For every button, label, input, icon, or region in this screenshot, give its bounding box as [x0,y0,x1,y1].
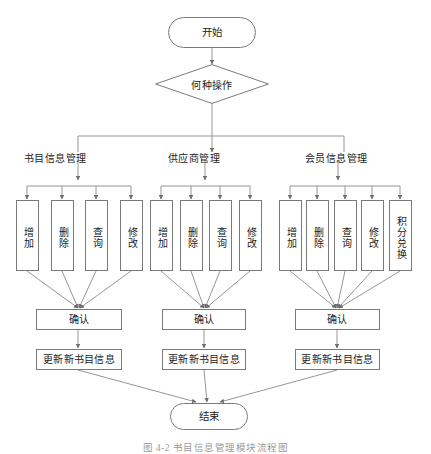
update-box[interactable]: 更新新书目信息 [162,349,246,370]
update-box-label: 更新新书目信息 [43,354,115,365]
operation-box[interactable]: 删除 [306,200,329,271]
branch-label-2: 供应商管理 [168,150,220,165]
operation-box[interactable]: 删除 [180,200,203,271]
operation-box-label: 增加 [22,223,33,249]
operation-box-label: 查询 [340,223,351,249]
operation-box-label: 增加 [156,223,167,249]
operation-box[interactable]: 删除 [51,200,74,271]
branch-label-3: 会员信息管理 [305,150,367,165]
confirm-box[interactable]: 确认 [36,309,122,330]
confirm-box-label: 确认 [194,314,215,325]
operation-box[interactable]: 积分兑换 [389,200,412,271]
branch-label-1-text: 书目信息管理 [24,153,86,164]
operation-box-label: 修改 [245,223,256,249]
operation-box-label: 修改 [126,223,137,249]
operation-box-label: 增加 [285,223,296,249]
branch-label-3-text: 会员信息管理 [305,153,367,164]
figure-caption: 图 4-2 书目信息管理模块流程图 [0,440,431,454]
update-box[interactable]: 更新新书目信息 [36,349,122,370]
update-box-label: 更新新书目信息 [301,354,373,365]
start-node[interactable]: 开始 [168,17,256,48]
operation-box-label: 查询 [215,223,226,249]
end-node-label: 结束 [199,411,220,423]
confirm-box[interactable]: 确认 [162,309,246,330]
operation-box[interactable]: 修改 [120,200,143,271]
update-box[interactable]: 更新新书目信息 [295,349,380,370]
start-node-label: 开始 [202,27,223,39]
operation-box[interactable]: 增加 [279,200,302,271]
operation-box[interactable]: 修改 [361,200,384,271]
decision-node[interactable]: 何种操作 [155,64,269,104]
operation-box[interactable]: 查询 [209,200,232,271]
update-box-label: 更新新书目信息 [168,354,240,365]
decision-node-label: 何种操作 [191,77,232,92]
end-node[interactable]: 结束 [170,403,248,430]
operation-box-label: 查询 [91,223,102,249]
operation-box-label: 积分兑换 [395,212,406,260]
confirm-box[interactable]: 确认 [295,309,380,330]
operation-box[interactable]: 修改 [239,200,262,271]
operation-box[interactable]: 增加 [150,200,173,271]
confirm-box-label: 确认 [69,314,90,325]
operation-box[interactable]: 增加 [16,200,39,271]
operation-box-label: 删除 [312,223,323,249]
operation-box[interactable]: 查询 [334,200,357,271]
operation-box-label: 删除 [186,223,197,249]
branch-label-1: 书目信息管理 [24,150,86,165]
operation-box[interactable]: 查询 [85,200,108,271]
operation-box-label: 修改 [367,223,378,249]
operation-box-label: 删除 [57,223,68,249]
figure-caption-text: 图 4-2 书目信息管理模块流程图 [143,443,289,453]
confirm-box-label: 确认 [327,314,348,325]
branch-label-2-text: 供应商管理 [168,153,220,164]
